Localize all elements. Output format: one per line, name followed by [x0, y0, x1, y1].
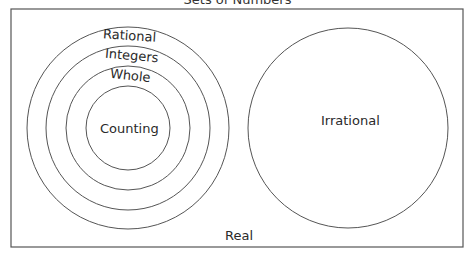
- irrational-label: Irrational: [321, 113, 380, 128]
- real-label: Real: [225, 228, 253, 243]
- counting-label: Counting: [100, 121, 159, 136]
- irrational-circle: [248, 28, 448, 228]
- real-set-boundary: [11, 9, 463, 247]
- venn-diagram: [0, 0, 475, 258]
